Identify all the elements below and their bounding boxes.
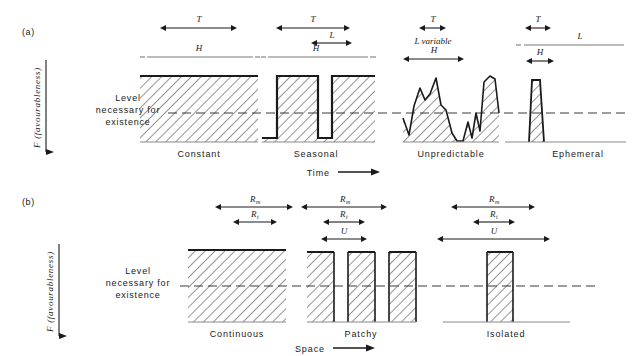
caption-isolated: Isolated — [487, 329, 526, 339]
measure-label-H: H — [430, 45, 438, 55]
measure-label-H: H — [195, 43, 203, 53]
isolated-bar — [487, 252, 513, 322]
measure-label-Rm: R — [249, 194, 256, 204]
caption-unpredictable: Unpredictable — [417, 149, 484, 159]
continuous-block-fill — [188, 250, 286, 322]
level-line-1: Level — [125, 266, 151, 276]
measure-label-L: L — [328, 30, 334, 40]
measure-label-Rt: R — [250, 209, 257, 219]
patchy-bar-3 — [389, 252, 416, 322]
panel-b-y-label: F (favourableness) — [45, 251, 55, 333]
measure-label-U: U — [491, 226, 498, 236]
panel-a-x-label: Time — [307, 168, 330, 178]
measure-label-Rt: R — [339, 209, 346, 219]
measure-label-H: H — [312, 43, 320, 53]
measure-sub-Rm: m — [495, 199, 500, 205]
caption-continuous: Continuous — [210, 329, 265, 339]
measure-label-Rt: R — [489, 209, 496, 219]
panel-b-tag: (b) — [22, 197, 35, 207]
panel-a-y-label: F (favourableness) — [32, 67, 42, 149]
habitat-templet-figure: (a) F (favourableness) Level necessary f… — [0, 0, 638, 356]
panel-b-x-label: Space — [295, 344, 325, 354]
caption-constant: Constant — [177, 149, 220, 159]
caption-ephemeral: Ephemeral — [552, 149, 604, 159]
level-line-1: Level — [115, 93, 141, 103]
measure-label-H: H — [536, 47, 544, 57]
patchy-bar-1 — [307, 252, 334, 322]
constant-block-fill — [140, 76, 258, 142]
level-line-2: necessary for — [106, 278, 170, 288]
measure-sub-Rm: m — [256, 199, 261, 205]
patchy-bar-2 — [348, 252, 375, 322]
panel-a-tag: (a) — [22, 27, 35, 37]
figure-canvas: (a) F (favourableness) Level necessary f… — [0, 0, 638, 356]
measure-label-L: L — [576, 31, 582, 41]
measure-sub-Rm: m — [346, 199, 351, 205]
caption-seasonal: Seasonal — [294, 149, 339, 159]
measure-label-Rm: R — [488, 194, 495, 204]
measure-label-Rm: R — [339, 194, 346, 204]
caption-patchy: Patchy — [345, 329, 378, 339]
level-line-3: existence — [115, 290, 160, 300]
measure-label-U: U — [341, 226, 348, 236]
